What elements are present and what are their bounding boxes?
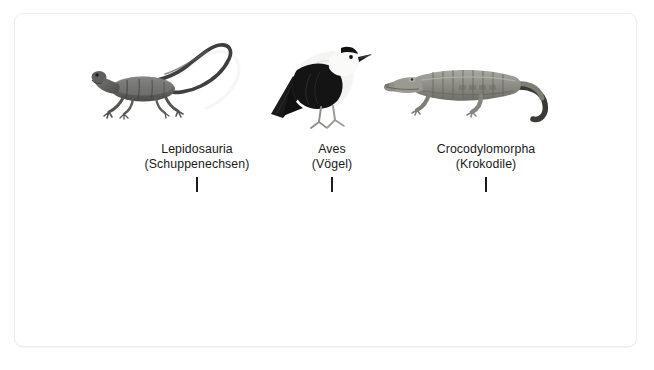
crocodile-illustration [15,14,638,154]
taxon-label-crocodylomorpha: Crocodylomorpha (Krokodile) [376,142,596,171]
taxon-tick-lepidosauria [196,177,198,192]
taxon-tick-crocodylomorpha [485,177,487,192]
taxon-common-name: (Krokodile) [376,157,596,172]
figure-card: Lepidosauria (Schuppenechsen) [14,13,637,347]
taxon-scientific-name: Crocodylomorpha [376,142,596,157]
taxon-tick-aves [331,177,333,192]
